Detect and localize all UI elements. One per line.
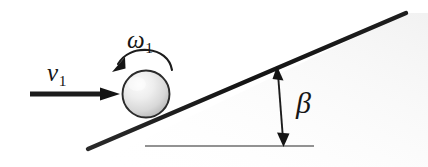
velocity-arrow (30, 88, 120, 101)
angular-velocity-label: ω1 (127, 27, 152, 52)
angular-velocity-symbol: ω (127, 26, 145, 53)
velocity-label: v1 (47, 60, 66, 85)
velocity-subscript: 1 (59, 72, 67, 89)
physics-diagram: v1 ω1 β (0, 0, 428, 167)
angular-velocity-arrow (112, 50, 172, 72)
ball-shape (123, 71, 170, 118)
velocity-symbol: v (47, 59, 58, 86)
angular-velocity-subscript: 1 (145, 39, 153, 56)
incline-angle-label: β (296, 88, 311, 118)
